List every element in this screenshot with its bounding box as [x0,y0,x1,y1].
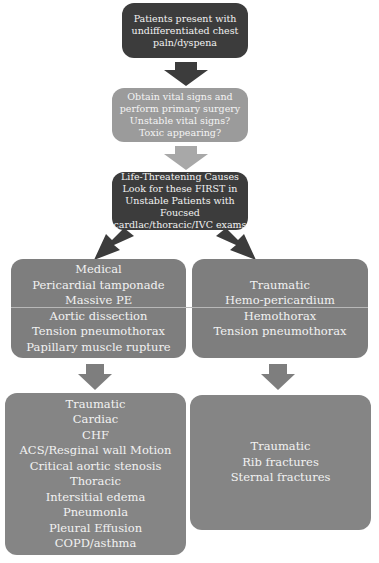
category-heading: Traumatic [250,278,310,294]
cause-item: Aortic dissection [50,309,148,325]
cause-item: Critical aortic stenosis [30,459,162,475]
cause-item: Papillary muscle rupture [26,340,170,356]
traumatic-life-threatening-box: Traumatic Hemo-pericardium Hemothorax Te… [192,259,368,358]
step-text: Look for these FIRST in [123,183,238,195]
cause-item: Sternal fractures [231,470,331,486]
step-text: Unstable vital signs? [130,115,230,127]
traumatic-other-box: Traumatic Rib fractures Sternal fracture… [190,395,371,530]
step-text: Obtain vital signs and [127,91,232,103]
category-heading: Cardiac [73,412,119,428]
cause-item: COPD/asthma [55,536,137,552]
down-arrow-icon [261,364,295,390]
category-heading: Traumatic [66,397,126,413]
step-text: Toxic appearing? [139,127,221,139]
step-text: paln/dyspena [153,37,217,49]
down-arrow-icon [164,62,208,86]
category-heading: Thoracic [70,474,121,490]
cause-item: Tension pneumothorax [213,324,346,340]
cause-item: ACS/Resginal wall Motion [20,443,172,459]
step-text: undifferentiated chest [132,25,239,37]
category-heading: Medical [75,262,122,278]
divider-line [11,307,368,308]
step-text: Unstable Patients with [125,195,234,207]
cause-item: Pneumonla [63,505,128,521]
cause-item: Tension pneumothorax [32,324,165,340]
step-patients-present: Patients present with undifferentiated c… [122,3,248,58]
other-causes-box: Traumatic Cardiac CHF ACS/Resginal wall … [5,393,186,555]
diagonal-arrow-left-icon [90,228,134,260]
cause-item: CHF [82,428,109,444]
cause-item: Pericardial tamponade [32,278,164,294]
step-life-threatening: Life-Threatening Causes Look for these F… [112,172,248,230]
step-vital-signs: Obtain vital signs and perform primary s… [112,88,248,142]
category-heading: Traumatic [251,439,311,455]
cause-item: Rib fractures [242,455,319,471]
step-text: perform primary surgery [120,103,240,115]
down-arrow-icon [78,364,112,390]
cause-item: Hemothorax [244,309,316,325]
cause-item: Intersitial edema [46,490,146,506]
step-text: Patients present with [134,13,237,25]
step-text: Foucsed [160,207,200,219]
medical-causes-box: Medical Pericardial tamponade Massive PE… [11,259,186,358]
step-text: Life-Threatening Causes [121,171,239,183]
down-arrow-icon [164,146,208,170]
cause-item: Pleural Effusion [49,521,142,537]
diagonal-arrow-right-icon [216,228,260,260]
